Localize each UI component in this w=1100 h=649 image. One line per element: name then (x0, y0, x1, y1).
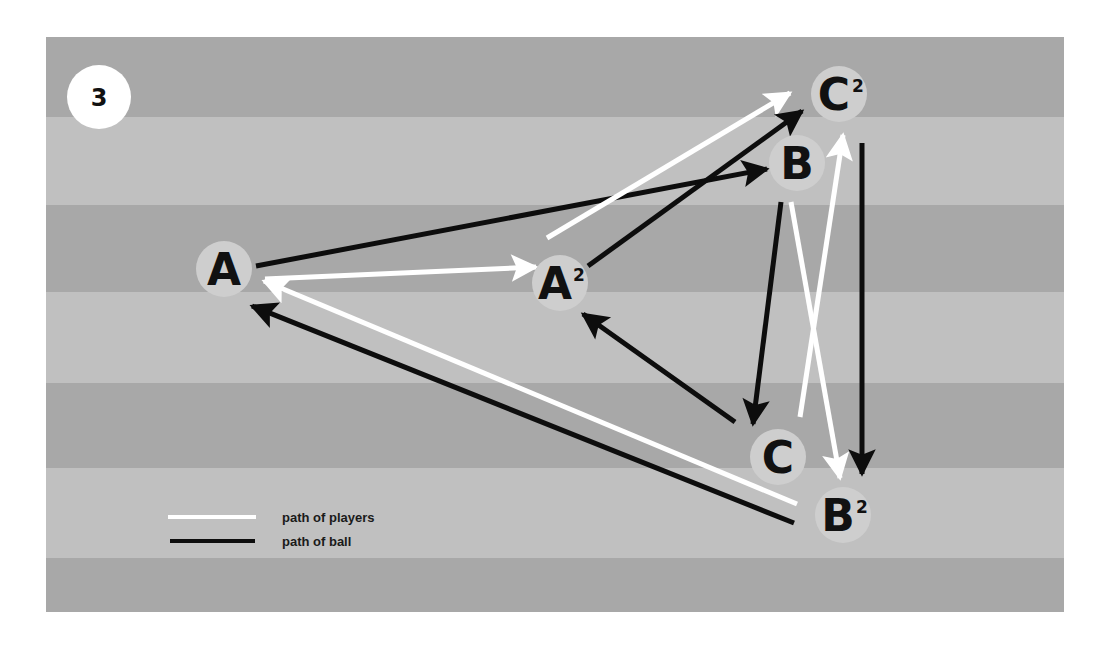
position-c2: C2 (811, 66, 867, 122)
position-superscript: 2 (573, 265, 585, 285)
position-b2: B2 (815, 487, 871, 543)
position-a: A (196, 241, 252, 297)
position-label: B (780, 138, 814, 189)
position-label: B (821, 490, 855, 541)
position-c: C (750, 429, 806, 485)
passing-drill-diagram: AA2BC2CB2 3 path of players path of ball (0, 0, 1100, 649)
step-number: 3 (91, 84, 108, 112)
field-stripe-light (46, 468, 1064, 558)
legend-ball-label: path of ball (282, 534, 351, 549)
position-label: A (207, 244, 241, 295)
legend-player-label: path of players (282, 510, 374, 525)
pitch-field (46, 37, 1064, 612)
field-stripe-dark (46, 558, 1064, 612)
step-badge: 3 (67, 65, 131, 129)
position-label: C (762, 432, 794, 483)
field-stripe-dark (46, 37, 1064, 117)
position-label: A (538, 258, 572, 309)
position-label: C (818, 69, 850, 120)
position-b: B (769, 135, 825, 191)
position-a2: A2 (532, 255, 588, 311)
field-stripe-light (46, 117, 1064, 205)
position-superscript: 2 (852, 76, 864, 96)
position-superscript: 2 (856, 497, 868, 517)
